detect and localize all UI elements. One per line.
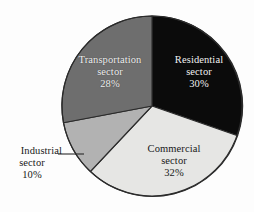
pie-label-commercial-sub: sector [133, 155, 215, 167]
pie-label-transportation: Transportation sector 28% [64, 54, 156, 90]
pie-label-commercial: Commercial sector 32% [133, 143, 215, 179]
pie-label-industrial-sub: sector [2, 157, 62, 169]
pie-label-industrial: Industrial sector 10% [2, 145, 62, 181]
pie-label-transportation-sub: sector [64, 66, 156, 78]
pie-label-residential-value: 30% [160, 78, 238, 90]
pie-label-commercial-value: 32% [133, 167, 215, 179]
pie-label-commercial-name: Commercial [133, 143, 215, 155]
pie-label-transportation-name: Transportation [64, 54, 156, 66]
pie-label-residential-name: Residential [160, 54, 238, 66]
pie-label-transportation-value: 28% [64, 78, 156, 90]
pie-label-industrial-value: 10% [2, 169, 62, 181]
pie-chart-figure: Residential sector 30% Transportation se… [0, 0, 254, 212]
pie-label-residential: Residential sector 30% [160, 54, 238, 90]
pie-label-residential-sub: sector [160, 66, 238, 78]
pie-label-industrial-name: Industrial [2, 145, 62, 157]
